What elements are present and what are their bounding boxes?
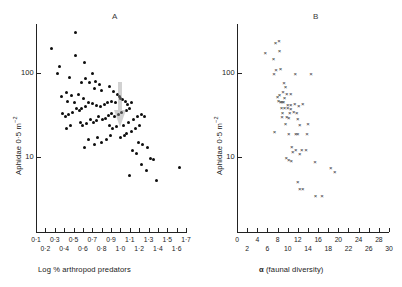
data-point bbox=[105, 138, 108, 141]
data-point bbox=[109, 134, 112, 137]
x-tick bbox=[369, 228, 370, 232]
x-tick-label-top: 1·1 bbox=[121, 236, 139, 243]
panel-b-y-title-exponent: −2 bbox=[213, 116, 219, 123]
data-point bbox=[97, 115, 100, 118]
data-point: × bbox=[301, 186, 305, 192]
data-point bbox=[135, 152, 138, 155]
x-tick-label-top: 0·9 bbox=[102, 236, 120, 243]
x-tick-label-bottom: 30 bbox=[382, 245, 396, 252]
data-point bbox=[60, 95, 63, 98]
data-point bbox=[91, 72, 94, 75]
panel-b: B 100 10 Aphidae 0·5 m−2 α (faunal diver… bbox=[201, 0, 402, 287]
x-tick bbox=[111, 228, 112, 232]
x-tick bbox=[328, 228, 329, 232]
x-tick-label-top: 0·7 bbox=[83, 236, 101, 243]
x-tick-label-top: 24 bbox=[352, 236, 366, 243]
data-point bbox=[106, 101, 109, 104]
data-point: × bbox=[297, 103, 301, 109]
x-tick bbox=[92, 228, 93, 232]
data-point bbox=[78, 109, 81, 112]
data-point bbox=[58, 65, 61, 68]
data-point: × bbox=[298, 122, 302, 128]
x-tick bbox=[120, 228, 121, 232]
data-point bbox=[143, 115, 146, 118]
panel-b-y-title-rest: 5 m bbox=[215, 123, 224, 136]
data-point: × bbox=[333, 169, 337, 175]
data-point bbox=[56, 72, 59, 75]
x-tick-label-bottom: 1·4 bbox=[149, 245, 167, 252]
x-tick-label-top: 8 bbox=[271, 236, 285, 243]
data-point: × bbox=[273, 129, 277, 135]
data-point bbox=[141, 143, 144, 146]
data-point bbox=[99, 105, 102, 108]
x-tick-label-top: 16 bbox=[311, 236, 325, 243]
data-point bbox=[95, 119, 98, 122]
panel-a-y-axis-title: Aphidae 0·5 m−2 bbox=[12, 116, 23, 175]
data-point bbox=[61, 112, 64, 115]
data-point: × bbox=[301, 101, 305, 107]
data-point bbox=[94, 80, 97, 83]
data-point bbox=[50, 47, 53, 50]
x-tick bbox=[278, 228, 279, 232]
panel-a-y-title-main: Aphidae 0 bbox=[14, 139, 23, 175]
data-point bbox=[145, 169, 148, 172]
x-tick bbox=[308, 228, 309, 232]
panel-a-label: A bbox=[112, 12, 118, 21]
data-point: × bbox=[264, 50, 268, 56]
x-tick-label-top: 1·3 bbox=[140, 236, 158, 243]
x-tick-label-top: 0·5 bbox=[65, 236, 83, 243]
x-tick bbox=[102, 228, 103, 232]
data-point bbox=[69, 124, 72, 127]
x-tick bbox=[379, 228, 380, 232]
data-point: × bbox=[314, 193, 318, 199]
data-point: × bbox=[305, 131, 309, 137]
data-point: × bbox=[278, 48, 282, 54]
x-tick-label-bottom: 10 bbox=[281, 245, 295, 252]
data-point bbox=[74, 31, 77, 34]
x-tick bbox=[359, 228, 360, 232]
x-tick bbox=[36, 228, 37, 232]
data-point bbox=[123, 134, 126, 137]
data-point: × bbox=[289, 91, 293, 97]
x-tick-label-top: 20 bbox=[331, 236, 345, 243]
data-point: × bbox=[272, 56, 276, 62]
panel-b-y-tick-label-100: 100 bbox=[215, 68, 235, 77]
data-point bbox=[127, 121, 130, 124]
data-point bbox=[67, 113, 70, 116]
x-tick bbox=[186, 228, 187, 232]
data-point: × bbox=[279, 66, 283, 72]
panel-b-y-axis-title: Aphidae 0·5 m−2 bbox=[213, 116, 224, 175]
data-point bbox=[107, 114, 110, 117]
data-point bbox=[84, 105, 87, 108]
data-point: × bbox=[304, 147, 308, 153]
data-point bbox=[100, 89, 103, 92]
x-tick-label-bottom: 0·4 bbox=[55, 245, 73, 252]
data-point: × bbox=[289, 158, 293, 164]
x-tick-label-top: 4 bbox=[250, 236, 264, 243]
panel-a-y-tick-10 bbox=[37, 157, 41, 158]
data-point bbox=[82, 97, 85, 100]
data-point: × bbox=[309, 71, 313, 77]
panel-b-label: B bbox=[313, 12, 319, 21]
data-point bbox=[84, 77, 87, 80]
data-point: × bbox=[284, 121, 288, 127]
x-tick-label-top: 1·5 bbox=[158, 236, 176, 243]
data-point bbox=[80, 107, 83, 110]
data-point bbox=[87, 138, 90, 141]
data-point bbox=[95, 104, 98, 107]
data-point bbox=[125, 132, 128, 135]
x-tick-label-bottom: 2 bbox=[240, 245, 254, 252]
data-point: × bbox=[306, 121, 310, 127]
data-point bbox=[155, 179, 158, 182]
data-point bbox=[81, 124, 84, 127]
panel-b-y-tick-10 bbox=[238, 157, 242, 158]
x-tick bbox=[45, 228, 46, 232]
x-tick-label-bottom: 26 bbox=[362, 245, 376, 252]
panel-a-y-tick-label-100: 100 bbox=[14, 68, 34, 77]
x-tick bbox=[257, 228, 258, 232]
x-tick bbox=[139, 228, 140, 232]
data-point bbox=[152, 158, 155, 161]
x-tick bbox=[149, 228, 150, 232]
panel-a-y-tick-100 bbox=[37, 73, 41, 74]
data-point bbox=[131, 149, 134, 152]
